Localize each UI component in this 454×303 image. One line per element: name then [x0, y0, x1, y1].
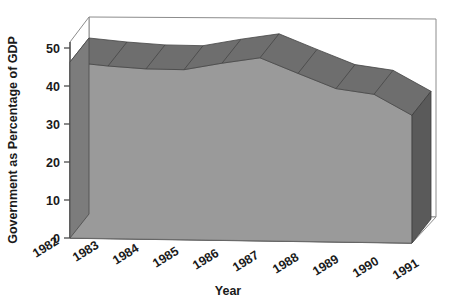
chart-container: 50 40 30 20 10 0 Government as Percentag… [0, 0, 454, 303]
y-tick-label-30: 30 [46, 118, 60, 132]
y-tick-label-20: 20 [46, 156, 60, 170]
area-left-side-face [70, 38, 89, 238]
y-axis-title: Government as Percentage of GDP [6, 36, 20, 244]
area-chart-3d: 50 40 30 20 10 0 Government as Percentag… [0, 0, 454, 303]
area-right-side-face [412, 91, 431, 243]
x-axis-title: Year [215, 284, 242, 298]
y-tick-label-50: 50 [46, 42, 60, 56]
y-tick-label-10: 10 [46, 194, 60, 208]
y-tick-label-40: 40 [46, 80, 60, 94]
